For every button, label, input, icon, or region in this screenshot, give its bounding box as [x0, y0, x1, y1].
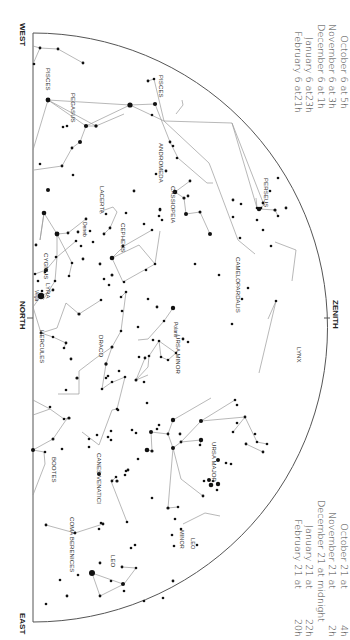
star-icon — [103, 278, 106, 281]
star-icon — [100, 299, 103, 302]
star-icon — [180, 441, 183, 444]
star-icon — [135, 379, 138, 382]
star-icon — [88, 438, 91, 441]
constellation-line — [33, 409, 50, 415]
star-icon — [45, 603, 48, 606]
constellation-label: LEO — [110, 555, 116, 567]
star-icon — [34, 273, 37, 276]
time-row: December 21 at midnight — [316, 497, 328, 640]
star-icon — [99, 562, 102, 565]
star-icon — [110, 439, 113, 442]
star-icon — [77, 231, 80, 234]
star-icon — [262, 229, 265, 232]
star-icon — [256, 219, 259, 222]
star-icon — [166, 506, 169, 509]
star-icon — [158, 215, 161, 218]
star-icon — [104, 362, 107, 365]
star-icon — [171, 418, 175, 422]
constellation-line — [181, 440, 201, 445]
star-icon — [52, 438, 55, 441]
star-icon — [135, 567, 138, 570]
star-icon — [80, 245, 83, 248]
star-icon — [55, 256, 58, 259]
times-west: October 6 at5h November 6 at3h December … — [293, 0, 350, 109]
star-icon — [257, 207, 261, 211]
star-icon — [199, 444, 202, 447]
star-icon — [148, 355, 151, 358]
star-icon — [203, 480, 206, 483]
star-icon — [153, 78, 156, 81]
star-icon — [111, 381, 114, 384]
star-icon — [230, 463, 233, 466]
constellation-line — [148, 79, 255, 254]
star-icon — [145, 269, 148, 272]
constellation-label: CEPHEUS — [120, 223, 126, 253]
constellation-line — [57, 241, 76, 257]
constellation-label: MINOR — [179, 530, 185, 549]
star-icon — [65, 389, 68, 392]
star-icon — [72, 174, 75, 177]
constellation-label: CASSIOPEIA — [170, 186, 176, 223]
star-icon — [256, 441, 259, 444]
star-icon — [225, 462, 228, 465]
star-icon — [232, 199, 235, 202]
star-icon — [127, 102, 132, 107]
star-icon — [171, 534, 174, 537]
constellation-label: LACERTA — [99, 186, 105, 214]
star-icon — [49, 406, 52, 409]
constellation-label: LEO — [190, 538, 196, 549]
constellation-line — [40, 213, 44, 240]
constellation-line — [138, 308, 173, 340]
star-icon — [118, 370, 121, 373]
constellation-label: LYNX — [296, 347, 302, 363]
star-icon — [82, 258, 85, 261]
star-icon — [187, 195, 190, 198]
star-icon — [150, 449, 153, 452]
star-icon — [218, 274, 221, 277]
constellation-label: DRACO — [98, 335, 104, 357]
star-icon — [66, 125, 69, 128]
constellation-line — [275, 242, 296, 281]
star-icon — [98, 528, 101, 531]
star-icon — [75, 240, 78, 243]
star-icon — [236, 422, 239, 425]
star-icon — [167, 433, 170, 436]
star-icon — [245, 443, 248, 446]
star-icon — [82, 62, 85, 65]
star-icon — [162, 597, 165, 600]
star-icon — [143, 223, 146, 226]
star-icon — [78, 140, 82, 144]
star-icon — [151, 114, 154, 117]
north-label: NORTH — [18, 301, 27, 329]
constellation-line — [201, 400, 235, 421]
constellation-label: HERCULES — [39, 330, 45, 363]
star-icon — [39, 163, 42, 166]
constellation-label: URSA MAJOR — [211, 442, 217, 482]
star-icon — [232, 216, 235, 219]
star-icon — [111, 346, 114, 349]
star-icon — [236, 404, 239, 407]
star-icon — [107, 375, 110, 378]
star-icon — [124, 376, 127, 379]
constellation-line — [168, 448, 178, 508]
star-icon — [209, 483, 214, 488]
constellation-line — [79, 300, 101, 314]
constellation-line — [92, 573, 100, 596]
constellation-line — [40, 213, 86, 240]
star-icon — [285, 207, 288, 210]
star-icon — [153, 102, 157, 106]
star-icon — [165, 170, 168, 173]
star-icon — [96, 434, 99, 437]
star-icon — [277, 215, 280, 218]
star-icon — [120, 330, 123, 333]
star-icon — [177, 506, 180, 509]
star-icon — [277, 177, 280, 180]
star-icon — [63, 418, 66, 421]
star-icon — [125, 470, 128, 473]
star-icon — [107, 436, 110, 439]
star-icon — [182, 196, 185, 199]
star-icon — [189, 180, 192, 183]
constellation-label: BOOTES — [51, 457, 57, 483]
star-icon — [173, 545, 176, 548]
star-icon — [171, 446, 175, 450]
